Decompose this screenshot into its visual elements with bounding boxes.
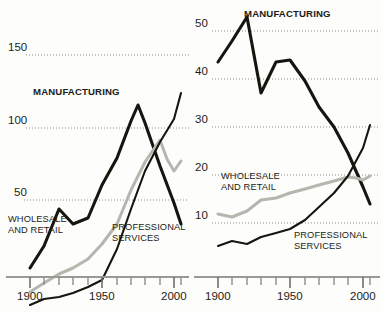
x-tick-label-1950: 1950 bbox=[89, 290, 115, 302]
y-tick-label-150: 150 bbox=[8, 41, 27, 53]
series-manufacturing-left bbox=[30, 105, 181, 268]
annotation-professional-line1: PROFESSIONAL bbox=[294, 230, 368, 240]
x-tick-label-2000: 2000 bbox=[161, 290, 187, 302]
y-tick-label-20: 20 bbox=[195, 161, 208, 173]
chart-left-svg: 150 100 50 bbox=[0, 0, 190, 313]
annotation-wholesale-line2: AND RETAIL bbox=[8, 225, 63, 235]
annotations-right: MANUFACTURING WHOLESALE AND RETAIL PROFE… bbox=[221, 8, 368, 251]
annotation-wholesale-line1: WHOLESALE bbox=[221, 171, 280, 181]
figure-root: 150 100 50 bbox=[0, 0, 381, 313]
line-manufacturing bbox=[30, 105, 181, 268]
y-tick-label-10: 10 bbox=[195, 209, 208, 221]
gridlines-right bbox=[212, 31, 380, 223]
series-professional-left bbox=[30, 93, 181, 305]
annotation-professional-line2: SERVICES bbox=[294, 241, 342, 251]
x-tick-label-1950: 1950 bbox=[277, 290, 303, 302]
y-tick-label-50: 50 bbox=[14, 186, 27, 198]
x-axis-right: 1900 1950 2000 bbox=[194, 277, 380, 302]
y-tick-label-50: 50 bbox=[195, 17, 208, 29]
annotation-professional-line2: SERVICES bbox=[112, 233, 160, 243]
chart-panel-right: 50 40 30 20 10 bbox=[190, 0, 381, 313]
annotation-wholesale-line1: WHOLESALE bbox=[8, 214, 67, 224]
y-tick-label-40: 40 bbox=[195, 65, 208, 77]
x-axis-left: 1900 1950 2000 bbox=[6, 277, 189, 302]
x-tick-label-2000: 2000 bbox=[350, 290, 376, 302]
annotation-manufacturing: MANUFACTURING bbox=[33, 86, 120, 97]
y-tick-label-100: 100 bbox=[8, 114, 27, 126]
y-axis-labels-right: 50 40 30 20 10 bbox=[195, 17, 208, 221]
annotation-professional-line1: PROFESSIONAL bbox=[112, 222, 186, 232]
x-tick-label-1900: 1900 bbox=[205, 290, 231, 302]
chart-panel-left: 150 100 50 bbox=[0, 0, 190, 313]
y-tick-label-30: 30 bbox=[195, 113, 208, 125]
y-axis-labels-left: 150 100 50 bbox=[8, 41, 27, 198]
annotation-wholesale-line2: AND RETAIL bbox=[221, 182, 276, 192]
annotation-manufacturing: MANUFACTURING bbox=[244, 8, 331, 19]
chart-right-svg: 50 40 30 20 10 bbox=[190, 0, 381, 313]
x-tick-label-1900: 1900 bbox=[17, 290, 43, 302]
line-professional-services bbox=[30, 93, 181, 305]
